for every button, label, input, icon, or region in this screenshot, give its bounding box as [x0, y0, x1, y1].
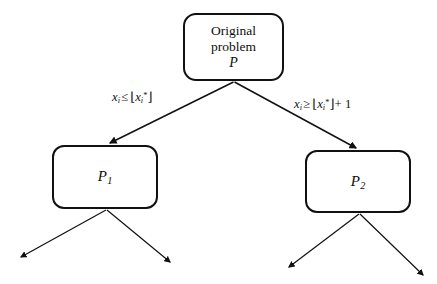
- edge-label-left-branch: xi≤⌊xi*⌋: [112, 89, 153, 105]
- branch-and-bound-diagram: Original problem P P1 P2 xi≤⌊xi*⌋ xi≥⌊xi…: [0, 0, 437, 284]
- edge-label-right-branch: xi≥⌊xi*⌋+ 1: [294, 96, 351, 112]
- node-p2-subscript: 2: [360, 179, 365, 190]
- node-p2-symbol: P: [351, 173, 360, 189]
- node-p1-symbol: P: [98, 168, 107, 184]
- node-subproblem-p1[interactable]: P1: [52, 145, 158, 209]
- left-relation: ≤: [120, 90, 130, 104]
- edge-p2-descendant-right: [360, 214, 423, 275]
- left-floor-close: ⌋: [148, 90, 153, 104]
- node-p1-subscript: 1: [107, 175, 112, 186]
- edge-root-to-p2: [235, 82, 357, 148]
- node-root-line2: problem: [211, 39, 256, 55]
- node-root-text: Original problem P: [211, 23, 256, 71]
- node-p1-label: P1: [98, 168, 112, 186]
- edge-p1-descendant-left: [21, 210, 106, 257]
- node-original-problem[interactable]: Original problem P: [183, 13, 284, 81]
- node-root-line1: Original: [211, 23, 256, 39]
- right-relation: ≥: [302, 97, 312, 111]
- node-root-line3: P: [211, 55, 256, 71]
- node-p2-label: P2: [351, 173, 365, 191]
- edge-p1-descendant-right: [107, 210, 170, 262]
- node-subproblem-p2[interactable]: P2: [305, 150, 411, 213]
- edge-p2-descendant-left: [289, 214, 359, 267]
- right-addend: + 1: [335, 97, 352, 111]
